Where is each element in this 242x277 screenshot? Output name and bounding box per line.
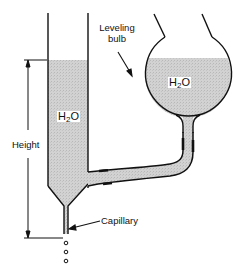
h2o-o: O [181,76,190,88]
leveling-bulb-arrow [118,52,132,76]
h2o-h: H [169,76,177,88]
drop [64,259,68,263]
drops [64,241,68,263]
capillary-label: Capillary [101,215,138,226]
bulb-h2o-label: H2O [168,77,191,88]
bulb-funnel [154,14,212,37]
leveling-bulb-label: Leveling bulb [95,22,139,44]
connecting-tube [88,128,193,186]
height-label: Height [12,139,39,150]
tube-h2o-label: H2O [57,111,80,122]
h2o-o: O [70,110,79,122]
capillary-arrow [69,221,100,230]
leveling-bulb-label-line1: Leveling [95,22,139,33]
drop [64,250,68,254]
h2o-h: H [58,110,66,122]
drop [64,241,68,245]
leveling-bulb-label-line2: bulb [95,33,139,44]
